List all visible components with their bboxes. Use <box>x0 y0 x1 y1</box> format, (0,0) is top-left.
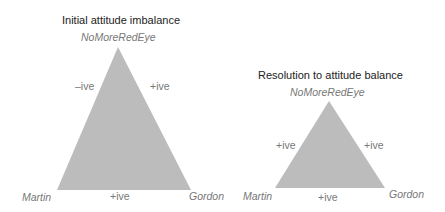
edge-label-nomoreredeye-gordon: +ive <box>150 80 170 92</box>
node-nomoreredeye: NoMoreRedEye <box>81 31 156 43</box>
node-martin: Martin <box>243 190 272 202</box>
node-gordon: Gordon <box>189 190 224 202</box>
diagram-title: Initial attitude imbalance <box>62 14 180 26</box>
edge-label-martin-gordon: +ive <box>318 191 338 203</box>
edge-label-martin-nomoreredeye: –ive <box>75 80 94 92</box>
diagram-title: Resolution to attitude balance <box>258 69 403 81</box>
node-nomoreredeye: NoMoreRedEye <box>290 86 365 98</box>
node-gordon: Gordon <box>389 188 424 200</box>
imbalance-triangle <box>57 47 191 190</box>
edge-label-martin-gordon: +ive <box>110 190 130 202</box>
edge-label-nomoreredeye-gordon: +ive <box>364 139 384 151</box>
edge-label-martin-nomoreredeye: +ive <box>276 139 296 151</box>
node-martin: Martin <box>22 191 51 203</box>
triangles-canvas <box>0 0 445 212</box>
